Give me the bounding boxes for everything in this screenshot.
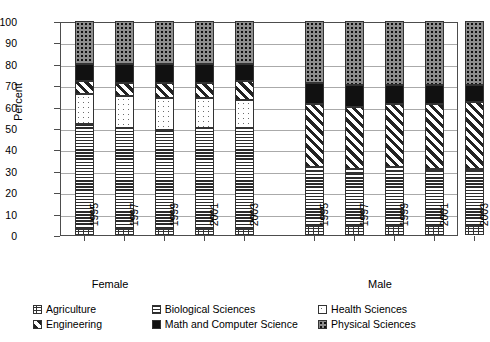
y-tick-label: 10 <box>5 210 17 220</box>
group-title-male: Male <box>320 278 440 290</box>
x-tick-mark <box>84 236 85 241</box>
y-tick-label: 90 <box>5 38 17 48</box>
x-tick-mark <box>474 236 475 241</box>
engineering-swatch-icon <box>33 320 42 329</box>
segment-health <box>306 167 323 171</box>
segment-physical <box>116 21 133 64</box>
legend-row-1: Agriculture Biological Sciences Health S… <box>33 302 453 317</box>
x-tick-label-female-2003: 2003 <box>249 203 260 243</box>
segment-engineering <box>156 83 173 98</box>
y-tick-label: 20 <box>5 188 17 198</box>
x-tick-mark <box>354 236 355 241</box>
segment-mathcs <box>426 85 443 104</box>
x-tick-mark <box>394 236 395 241</box>
x-tick-label-male-2003: 2003 <box>479 203 490 243</box>
biological-sciences-swatch-icon <box>152 305 161 314</box>
x-tick-label-male-1999: 1999 <box>399 203 410 243</box>
y-tick-label: 100 <box>0 17 17 27</box>
segment-physical <box>196 21 213 64</box>
segment-health <box>116 96 133 128</box>
x-tick-label-male-1997: 1997 <box>359 203 370 243</box>
physical-sciences-swatch-icon <box>318 320 327 329</box>
chart-legend: Agriculture Biological Sciences Health S… <box>33 302 453 332</box>
y-tick-label: 80 <box>5 60 17 70</box>
x-tick-mark <box>124 236 125 241</box>
segment-physical <box>236 21 253 64</box>
legend-item-engineering: Engineering <box>33 319 152 330</box>
segment-physical <box>156 21 173 64</box>
segment-mathcs <box>466 85 483 102</box>
legend-label-engineering: Engineering <box>46 319 102 330</box>
segment-physical <box>386 21 403 85</box>
x-tick-label-male-1995: 1995 <box>319 203 330 243</box>
segment-engineering <box>306 104 323 166</box>
legend-item-biological-sciences: Biological Sciences <box>152 304 318 315</box>
legend-item-math-and-computer-science: Math and Computer Science <box>152 319 318 330</box>
segment-engineering <box>466 102 483 168</box>
segment-engineering <box>426 104 443 168</box>
segment-engineering <box>386 104 403 166</box>
segment-health <box>426 169 443 171</box>
group-title-female: Female <box>50 278 170 290</box>
x-tick-label-female-1995: 1995 <box>89 203 100 243</box>
segment-health <box>466 169 483 171</box>
agriculture-swatch-icon <box>33 305 42 314</box>
segment-physical <box>76 21 93 64</box>
legend-label-math-and-computer-science: Math and Computer Science <box>165 319 298 330</box>
x-tick-mark <box>434 236 435 241</box>
y-tick-label: 0 <box>11 231 17 241</box>
x-tick-label-female-1997: 1997 <box>129 203 140 243</box>
x-tick-label-female-1999: 1999 <box>169 203 180 243</box>
segment-physical <box>466 21 483 85</box>
y-tick-label: 30 <box>5 167 17 177</box>
legend-row-2: Engineering Math and Computer Science Ph… <box>33 317 453 332</box>
segment-health <box>76 94 93 124</box>
segment-engineering <box>76 81 93 94</box>
legend-item-physical-sciences: Physical Sciences <box>318 319 453 330</box>
segment-physical <box>426 21 443 85</box>
legend-label-health-sciences: Health Sciences <box>331 304 407 315</box>
segment-engineering <box>116 83 133 96</box>
segment-mathcs <box>236 64 253 81</box>
legend-item-agriculture: Agriculture <box>33 304 152 315</box>
y-tick-label: 40 <box>5 145 17 155</box>
legend-label-agriculture: Agriculture <box>46 304 96 315</box>
segment-mathcs <box>386 85 403 104</box>
segment-mathcs <box>196 64 213 83</box>
segment-health <box>196 98 213 128</box>
segment-engineering <box>236 81 253 100</box>
segment-mathcs <box>306 83 323 104</box>
x-tick-mark <box>164 236 165 241</box>
segment-health <box>346 169 363 173</box>
segment-mathcs <box>156 64 173 83</box>
x-tick-mark <box>244 236 245 241</box>
y-tick-label: 70 <box>5 81 17 91</box>
segment-health <box>386 167 403 171</box>
segment-mathcs <box>346 85 363 106</box>
x-tick-mark <box>204 236 205 241</box>
y-tick-label: 60 <box>5 103 17 113</box>
health-sciences-swatch-icon <box>318 305 327 314</box>
legend-label-biological-sciences: Biological Sciences <box>165 304 255 315</box>
legend-label-physical-sciences: Physical Sciences <box>331 319 416 330</box>
segment-engineering <box>346 107 363 169</box>
segment-physical <box>306 21 323 83</box>
segment-engineering <box>196 83 213 98</box>
y-tick-label: 50 <box>5 124 17 134</box>
segment-mathcs <box>116 64 133 83</box>
y-tick-mark <box>54 236 60 237</box>
x-tick-mark <box>314 236 315 241</box>
x-tick-label-male-2001: 2001 <box>439 203 450 243</box>
segment-health <box>156 98 173 130</box>
x-tick-label-female-2001: 2001 <box>209 203 220 243</box>
segment-physical <box>346 21 363 85</box>
math-and-computer-science-swatch-icon <box>152 320 161 329</box>
segment-health <box>236 100 253 128</box>
legend-item-health-sciences: Health Sciences <box>318 304 453 315</box>
segment-mathcs <box>76 64 93 81</box>
